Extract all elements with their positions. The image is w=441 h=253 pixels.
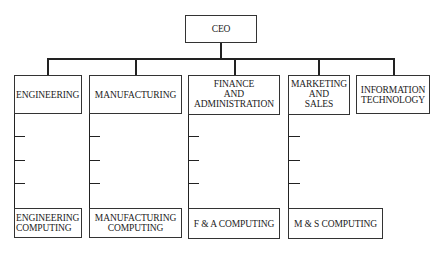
- dept-engineering: ENGINEERING: [14, 75, 82, 114]
- tick: [14, 160, 25, 161]
- tick: [288, 183, 300, 184]
- dept-manufacturing: MANUFACTURING: [89, 75, 182, 114]
- drop-line-engineering: [47, 58, 49, 75]
- dept-it: INFORMATION TECHNOLOGY: [356, 75, 430, 114]
- drop-line-finance: [234, 58, 236, 75]
- computing-manufacturing: MANUFACTURING COMPUTING: [89, 208, 182, 238]
- org-chart: CEO ENGINEERING MANUFACTURING FINANCE AN…: [0, 0, 441, 253]
- tick: [188, 136, 199, 137]
- spine-finance: [188, 115, 189, 209]
- dept-marketing: MARKETING AND SALES: [288, 75, 350, 115]
- drop-line-it: [393, 58, 395, 75]
- spine-manufacturing: [89, 114, 90, 209]
- tick: [288, 160, 300, 161]
- ceo-connector: [220, 43, 222, 59]
- computing-finance: F & A COMPUTING: [188, 208, 280, 239]
- tick: [14, 136, 25, 137]
- tick: [14, 183, 25, 184]
- dept-finance: FINANCE AND ADMINISTRATION: [188, 75, 280, 115]
- spine-marketing: [288, 115, 289, 209]
- spine-engineering: [14, 114, 15, 209]
- tick: [188, 160, 199, 161]
- tick: [89, 160, 100, 161]
- tick: [89, 136, 100, 137]
- drop-line-manufacturing: [135, 58, 137, 75]
- drop-line-marketing: [318, 58, 320, 75]
- computing-engineering: ENGINEERING COMPUTING: [14, 208, 82, 238]
- tick: [89, 183, 100, 184]
- ceo-box: CEO: [185, 15, 257, 43]
- horizontal-bus: [47, 58, 394, 60]
- tick: [288, 136, 300, 137]
- tick: [188, 183, 199, 184]
- computing-marketing: M & S COMPUTING: [288, 208, 383, 239]
